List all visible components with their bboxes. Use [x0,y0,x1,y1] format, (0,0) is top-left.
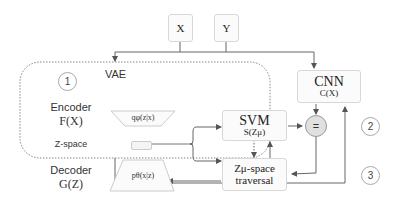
decoder-label: Decoder [40,164,102,176]
x-label: X [177,22,185,34]
cnn-func: C(X) [320,89,339,98]
encoder-label: Encoder [40,101,102,113]
encoder-func: F(X) [40,114,102,129]
svm-title: SVM [239,114,269,128]
vae-title: VAE [105,68,126,80]
cnn-title: CNN [314,75,344,89]
traversal-line2: traversal [236,175,274,187]
zspace-vector [131,141,152,150]
x-input-box: X [168,14,193,42]
decoder-func: G(Z) [40,177,102,192]
step-1-badge: 1 [58,72,77,91]
step-2-badge: 2 [361,117,380,136]
zspace-label: Z-space [40,139,102,149]
cnn-box: CNN C(X) [297,70,361,103]
encoder-dist: qφ(z|x) [111,113,175,122]
equality-check: = [305,115,327,137]
decoder-dist: pθ(x|z) [112,171,174,180]
svm-func: S(Zμ) [244,128,265,137]
step-3-badge: 3 [361,166,380,185]
traversal-line1: Zμ-space [234,163,275,175]
y-input-box: Y [214,14,239,42]
svm-box: SVM S(Zμ) [222,110,287,141]
y-label: Y [223,22,231,34]
traversal-box: Zμ-space traversal [222,158,287,191]
